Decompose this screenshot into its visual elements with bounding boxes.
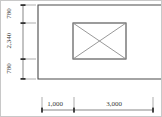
vertical-dimension-tick-3 [21, 58, 26, 60]
outer-boundary-outline [38, 5, 162, 79]
drawing-canvas [1, 1, 162, 117]
vertical-dimension-label-middle: 2,340 [6, 29, 13, 53]
horizontal-dimension-tick-1 [41, 108, 43, 113]
horizontal-dimension-tick-2 [73, 108, 75, 113]
vertical-dimension-label-bottom: 780 [6, 58, 13, 80]
horizontal-dimension-tick-3 [152, 108, 154, 113]
vertical-dimension-tick-4 [21, 78, 26, 80]
horizontal-dimension-label-left: 1,000 [42, 101, 68, 108]
vertical-dimension-label-top: 780 [6, 3, 13, 25]
vertical-dimension-tick-1 [21, 4, 26, 6]
vertical-dimension-tick-2 [21, 22, 26, 24]
horizontal-dimension-label-right: 3,000 [97, 101, 131, 108]
cad-drawing-screenshot: 780 2,340 780 1,000 3,000 [0, 0, 162, 117]
